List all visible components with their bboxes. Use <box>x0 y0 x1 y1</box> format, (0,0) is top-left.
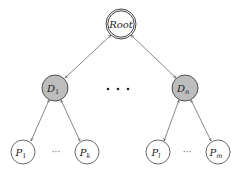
domain-ellipsis <box>107 88 130 91</box>
edge-root-dn <box>131 35 176 78</box>
edge-d1-p1 <box>31 100 49 141</box>
tree-diagram: Root D1 Dn P1 ··· Pk Pl <box>0 0 242 179</box>
pk-sub: k <box>86 152 90 160</box>
root-node: Root <box>106 9 136 39</box>
p1-sub: 1 <box>22 152 26 160</box>
dn-label: D <box>176 83 185 94</box>
leaf-node-pm: Pm <box>206 140 230 164</box>
pl-sub: l <box>158 152 160 160</box>
d1-label: D <box>46 83 55 94</box>
dn-sub: n <box>185 88 189 96</box>
domain-node-dn: Dn <box>172 75 198 101</box>
domain-node-d1: D1 <box>42 75 68 101</box>
pm-sub: m <box>216 152 222 160</box>
edge-dn-pm <box>191 100 211 141</box>
edge-d1-pk <box>61 100 80 141</box>
root-label: Root <box>108 19 134 30</box>
d1-sub: 1 <box>55 88 59 96</box>
edge-root-d1 <box>65 35 111 78</box>
leaf-ellipsis-right: ··· <box>183 147 192 157</box>
leaf-node-pk: Pk <box>75 140 99 164</box>
leaf-node-pl: Pl <box>146 140 170 164</box>
edge-dn-pl <box>164 100 179 141</box>
leaf-ellipsis-left: ··· <box>52 147 61 157</box>
leaf-node-p1: P1 <box>11 140 35 164</box>
